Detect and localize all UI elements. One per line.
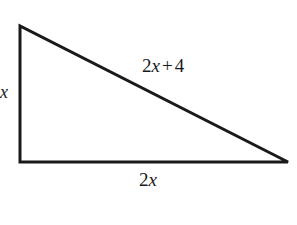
label-hypotenuse-operator: + <box>160 55 175 76</box>
label-left-leg: x <box>0 83 8 101</box>
label-hypotenuse-coefficient: 2 <box>142 55 152 76</box>
triangle-outline <box>20 26 288 162</box>
label-left-leg-text: x <box>0 82 8 102</box>
triangle-figure: x 2x+4 2x <box>0 0 297 225</box>
label-base: 2x <box>139 170 157 189</box>
label-hypotenuse: 2x+4 <box>142 56 184 75</box>
triangle-shape <box>0 0 297 225</box>
label-base-variable: x <box>149 169 157 190</box>
label-hypotenuse-variable: x <box>152 55 160 76</box>
label-base-coefficient: 2 <box>139 169 149 190</box>
label-hypotenuse-constant: 4 <box>175 55 185 76</box>
